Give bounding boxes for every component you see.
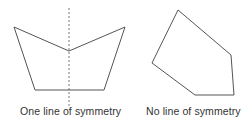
caption-no-line-of-symmetry: No line of symmetry (146, 105, 241, 117)
caption-one-line-of-symmetry: One line of symmetry (20, 105, 121, 117)
asymmetric-pentagon (152, 10, 234, 95)
